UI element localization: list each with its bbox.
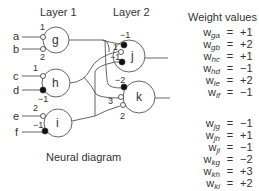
weight-row: whc=+1	[194, 50, 259, 62]
weight-row: wgb=+2	[194, 38, 259, 50]
weight-row: wji=−1	[194, 141, 259, 153]
weight-row: wga=+1	[194, 26, 259, 38]
weight-row: wki=+2	[194, 177, 259, 189]
weight-row: wjh=+1	[194, 129, 259, 141]
weight-row: wkh=+3	[194, 165, 259, 177]
weight-row: wjg=−1	[194, 117, 259, 129]
weight-row: wkg=−2	[194, 153, 259, 165]
weight-row: wie=+2	[194, 74, 259, 86]
weight-row: wif=−1	[194, 86, 259, 98]
weight-values-title: Weight values	[188, 11, 257, 23]
weight-values-panel: Weight values wga=+1 wgb=+2 whc=+1 whd=−…	[0, 0, 259, 191]
weight-row: whd=−1	[194, 62, 259, 74]
